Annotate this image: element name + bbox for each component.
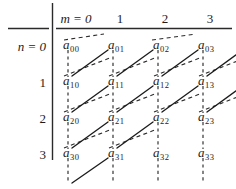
cell-base: a — [198, 145, 205, 160]
solid-diagonal-6 — [162, 86, 198, 112]
cell-sub: 21 — [115, 116, 125, 126]
cell-base: a — [198, 37, 205, 52]
solid-diagonal-0 — [72, 50, 108, 76]
solid-diagonal-10 — [72, 158, 108, 183]
matrix-cell-2-2: a22 — [153, 110, 170, 125]
cell-sub: 02 — [160, 44, 170, 54]
cell-base: a — [153, 73, 160, 88]
row-header-0: n = 0 — [18, 40, 46, 53]
cell-sub: 22 — [160, 116, 170, 126]
matrix-cell-3-3: a33 — [198, 146, 215, 161]
matrix-cell-1-2: a12 — [153, 74, 170, 89]
matrix-cell-1-0: a10 — [63, 74, 80, 89]
solid-diagonal-3 — [207, 52, 236, 76]
cell-base: a — [63, 73, 70, 88]
cell-base: a — [63, 37, 70, 52]
cell-sub: 20 — [70, 116, 80, 126]
cell-sub: 12 — [160, 80, 170, 90]
matrix-cell-2-3: a23 — [198, 110, 215, 125]
cell-sub: 33 — [205, 152, 215, 162]
column-header-0: m = 0 — [60, 12, 91, 25]
cell-base: a — [108, 109, 115, 124]
solid-diagonal-8 — [72, 122, 108, 148]
cell-base: a — [108, 37, 115, 52]
column-header-2: 2 — [162, 12, 169, 25]
cell-base: a — [153, 145, 160, 160]
solid-diagonal-2 — [162, 50, 198, 76]
matrix-cell-1-1: a11 — [108, 74, 124, 89]
matrix-cell-1-3: a13 — [198, 74, 215, 89]
matrix-cell-0-1: a01 — [108, 38, 125, 53]
solid-diagonal-9 — [117, 122, 153, 148]
column-header-3: 3 — [207, 12, 214, 25]
solid-diagonal-4 — [72, 86, 108, 112]
matrix-cell-0-2: a02 — [153, 38, 170, 53]
cell-base: a — [108, 145, 115, 160]
matrix-cell-3-1: a31 — [108, 146, 125, 161]
cell-sub: 32 — [160, 152, 170, 162]
cell-sub: 03 — [205, 44, 215, 54]
cell-sub: 11 — [115, 80, 124, 90]
matrix-cell-0-3: a03 — [198, 38, 215, 53]
matrix-cell-0-0: a00 — [63, 38, 80, 53]
cell-sub: 31 — [115, 152, 125, 162]
solid-diagonal-1 — [117, 50, 153, 76]
row-header-1: 1 — [40, 76, 47, 89]
matrix-diagonal-traversal-figure: m = 0 1 2 3 n = 0 1 2 3 a00 a01 a02 a03 … — [0, 0, 236, 189]
cell-base: a — [153, 37, 160, 52]
cell-base: a — [198, 109, 205, 124]
solid-diagonal-7 — [207, 88, 236, 112]
cell-base: a — [108, 73, 115, 88]
cell-sub: 13 — [205, 80, 215, 90]
column-header-1: 1 — [117, 12, 124, 25]
cell-base: a — [198, 73, 205, 88]
cell-sub: 00 — [70, 44, 80, 54]
cell-sub: 01 — [115, 44, 125, 54]
matrix-cell-2-0: a20 — [63, 110, 80, 125]
cell-sub: 23 — [205, 116, 215, 126]
cell-base: a — [63, 109, 70, 124]
cell-sub: 30 — [70, 152, 80, 162]
cell-base: a — [153, 109, 160, 124]
cell-sub: 10 — [70, 80, 80, 90]
solid-diagonal-5 — [117, 86, 153, 112]
row-header-3: 3 — [40, 148, 47, 161]
matrix-cell-3-0: a30 — [63, 146, 80, 161]
cell-base: a — [63, 145, 70, 160]
matrix-cell-3-2: a32 — [153, 146, 170, 161]
row-header-2: 2 — [40, 112, 47, 125]
matrix-cell-2-1: a21 — [108, 110, 125, 125]
